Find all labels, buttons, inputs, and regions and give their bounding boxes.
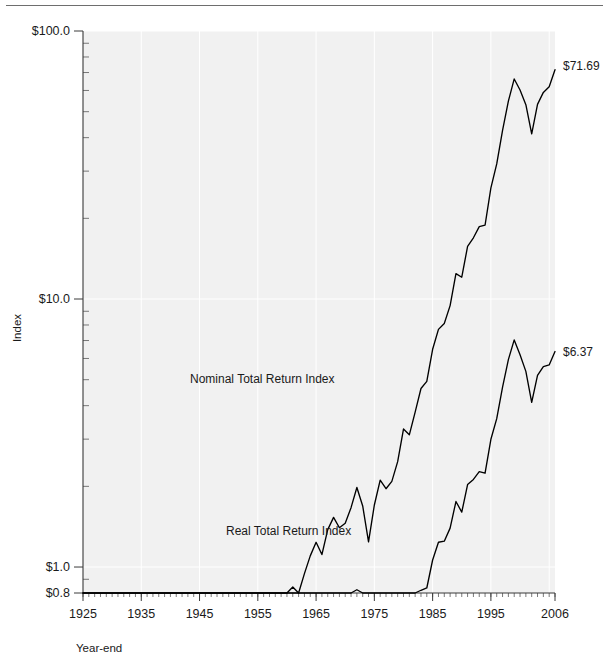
y-axis-tick-labels: $100.0$10.0$1.0$0.8 xyxy=(32,24,70,600)
y-tick-label: $0.8 xyxy=(46,586,70,600)
x-axis-tick-labels: 192519351945195519651975198519952006 xyxy=(69,607,569,621)
total-return-index-chart: $100.0$10.0$1.0$0.8 19251935194519551965… xyxy=(0,0,609,664)
chart-figure: $100.0$10.0$1.0$0.8 19251935194519551965… xyxy=(0,0,609,664)
nominal-series-label: Nominal Total Return Index xyxy=(190,372,335,386)
y-axis-title: Index xyxy=(11,314,23,342)
x-tick-label: 2006 xyxy=(541,607,569,621)
real-endpoint-label: $6.37 xyxy=(563,345,593,359)
y-tick-label: $100.0 xyxy=(32,24,70,38)
y-axis-ticks xyxy=(74,31,83,593)
x-tick-label: 1945 xyxy=(186,607,214,621)
x-tick-label: 1965 xyxy=(302,607,330,621)
x-tick-label: 1995 xyxy=(477,607,505,621)
y-tick-label: $1.0 xyxy=(46,560,70,574)
x-axis-ticks xyxy=(83,593,555,601)
x-tick-label: 1955 xyxy=(244,607,272,621)
y-tick-label: $10.0 xyxy=(39,292,70,306)
x-tick-label: 1935 xyxy=(127,607,155,621)
x-tick-label: 1985 xyxy=(419,607,447,621)
x-axis-title: Year-end xyxy=(76,642,122,654)
nominal-endpoint-label: $71.69 xyxy=(563,59,600,73)
plot-background xyxy=(83,31,555,593)
real-series-label: Real Total Return Index xyxy=(226,524,351,538)
x-tick-label: 1975 xyxy=(360,607,388,621)
x-tick-label: 1925 xyxy=(69,607,97,621)
